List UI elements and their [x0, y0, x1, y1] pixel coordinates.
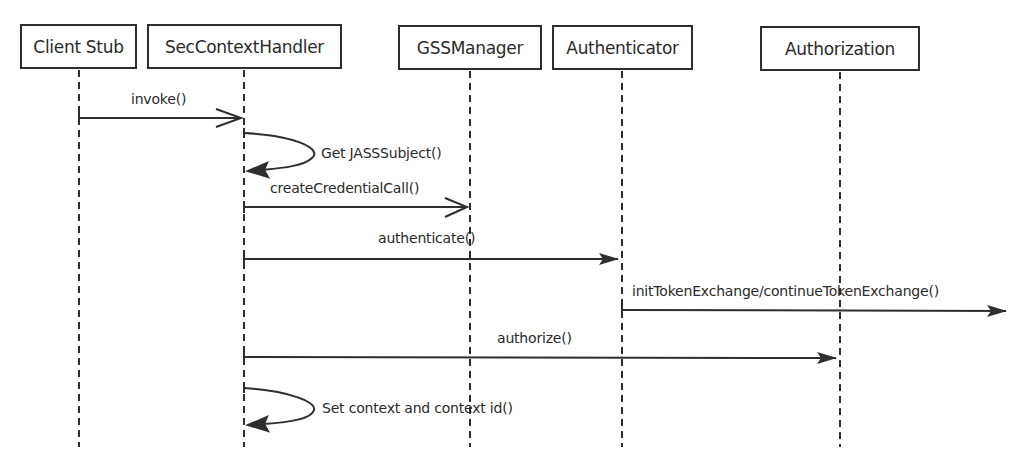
message-label-create-credential-call: createCredentialCall(): [270, 180, 419, 196]
message-get-jass-subject-arrow: [244, 128, 314, 177]
participant-sec-context-handler: SecContextHandler: [147, 24, 342, 69]
participant-authenticator: Authenticator: [552, 25, 693, 70]
participant-client-stub: Client Stub: [20, 24, 137, 69]
message-create-credential-call-arrow: [244, 198, 467, 217]
message-invoke-arrow: [79, 109, 241, 127]
message-label-authenticate: authenticate(): [378, 230, 475, 246]
message-authenticate-arrow: [244, 253, 618, 265]
message-label-set-context: Set context and context id(): [322, 400, 513, 416]
participant-label: Client Stub: [33, 37, 123, 57]
participant-label: Authorization: [785, 39, 895, 59]
message-authorize-arrow: [244, 351, 836, 363]
message-label-authorize: authorize(): [497, 330, 572, 346]
message-set-context-arrow: [244, 383, 314, 431]
participant-authorization: Authorization: [760, 26, 920, 71]
participant-label: GSSManager: [417, 38, 523, 58]
participant-label: Authenticator: [566, 38, 678, 58]
participant-label: SecContextHandler: [165, 37, 324, 57]
message-init-token-exchange-arrow: [622, 304, 1006, 316]
message-label-get-jass-subject: Get JASSSubject(): [321, 145, 442, 161]
message-label-invoke: invoke(): [131, 91, 186, 107]
participant-gss-manager: GSSManager: [398, 25, 542, 70]
message-label-init-token-exchange: initTokenExchange/continueTokenExchange(…: [632, 283, 939, 299]
